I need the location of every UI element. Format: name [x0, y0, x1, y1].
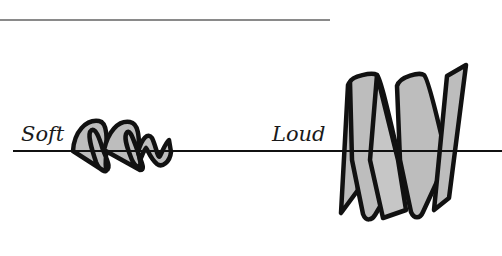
loud-wave [341, 65, 466, 219]
soft-wave [73, 121, 171, 172]
label-loud: Loud [271, 122, 326, 146]
sound-amplitude-diagram: Soft Loud [0, 0, 502, 256]
label-soft: Soft [21, 122, 65, 146]
